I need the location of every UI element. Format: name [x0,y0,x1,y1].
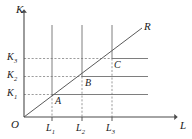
x-tick-label-l2-sub: 2 [82,128,85,135]
y-tick-label-k2-sub: 2 [14,75,17,82]
x-tick-label-l1: L1 [46,123,55,133]
y-axis-label: K [16,4,23,15]
figure-canvas [0,0,192,139]
vertical-lines [52,25,112,95]
y-tick-label-k2: K2 [7,70,17,80]
y-tick-label-k1: K1 [7,88,17,98]
y-tick-label-k3-text: K [7,51,14,62]
x-tick-label-l2-text: L [76,122,82,133]
ray-label-r: R [144,21,151,32]
y-tick-label-k3-sub: 3 [14,57,17,64]
point-label-b: B [85,78,91,88]
y-tick-label-k2-text: K [7,69,14,80]
x-tick-label-l1-text: L [46,122,52,133]
guide-lines-dashed [24,59,112,118]
x-axis-ticks [52,117,112,121]
x-axis-label: L [180,120,186,131]
point-label-c: C [114,60,121,70]
y-tick-label-k3: K3 [7,52,17,62]
point-label-a: A [55,96,61,106]
x-tick-label-l3: L3 [106,123,115,133]
x-tick-label-l1-sub: 1 [52,128,55,135]
expansion-path-ray [24,28,142,117]
x-tick-label-l3-text: L [106,122,112,133]
x-tick-label-l2: L2 [76,123,85,133]
y-tick-label-k1-sub: 1 [14,93,17,100]
x-tick-label-l3-sub: 3 [112,128,115,135]
y-tick-label-k1-text: K [7,87,14,98]
origin-label: O [11,119,19,130]
expansion-path-figure: K L O K1 K2 K3 L1 L2 L3 A B C R [0,0,192,139]
